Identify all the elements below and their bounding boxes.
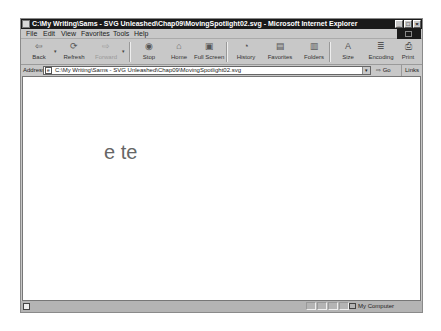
back-dropdown[interactable]: ▾ (54, 48, 57, 54)
refresh-button[interactable]: ⟳ Refresh (59, 41, 89, 63)
refresh-icon: ⟳ (69, 42, 79, 51)
maximize-button[interactable]: □ (404, 20, 412, 28)
page-status-icon (23, 303, 30, 310)
favorites-button[interactable]: ▤ Favorites (265, 41, 295, 63)
stop-icon: ◉ (144, 42, 154, 51)
home-icon: ⌂ (174, 42, 184, 51)
toolbar-separator (226, 42, 228, 62)
go-arrow-icon: ⇨ (376, 67, 381, 73)
minimize-button[interactable]: _ (395, 20, 403, 28)
spotlight-text: e te (104, 141, 137, 164)
folders-icon: ▥ (309, 42, 319, 51)
back-button[interactable]: ⇦ Back (24, 41, 54, 63)
menu-tools[interactable]: Tools (113, 29, 129, 39)
zone-label: My Computer (358, 303, 394, 309)
home-button[interactable]: ⌂ Home (164, 41, 194, 63)
encoding-icon: ≣ (376, 42, 386, 51)
status-pane (339, 302, 349, 310)
fullscreen-icon: ▣ (204, 42, 214, 51)
address-label: Address (23, 65, 45, 76)
menu-help[interactable]: Help (134, 29, 148, 39)
forward-button[interactable]: ⇨ Forward (91, 41, 121, 63)
computer-icon (349, 303, 356, 309)
status-bar: My Computer (21, 301, 422, 312)
security-zone: My Computer (349, 301, 394, 312)
status-pane (317, 302, 327, 310)
ie-throbber-logo (397, 29, 421, 39)
home-label: Home (164, 53, 194, 61)
status-pane (306, 302, 316, 310)
toolbar-separator (129, 42, 131, 62)
stop-label: Stop (134, 53, 164, 61)
stop-button[interactable]: ◉ Stop (134, 41, 164, 63)
page-icon: e (45, 67, 52, 74)
favorites-icon: ▤ (275, 42, 285, 51)
full-screen-button[interactable]: ▣ Full Screen (194, 41, 224, 63)
menu-bar: File Edit View Favorites Tools Help (21, 29, 422, 39)
ie-window: C:\My Writing\Sams - SVG Unleashed\Chap0… (20, 18, 423, 313)
go-button[interactable]: ⇨ Go (376, 65, 391, 76)
forward-dropdown[interactable]: ▾ (122, 48, 125, 54)
folders-button[interactable]: ▥ Folders (299, 41, 329, 63)
window-title: C:\My Writing\Sams - SVG Unleashed\Chap0… (32, 19, 357, 29)
title-bar[interactable]: C:\My Writing\Sams - SVG Unleashed\Chap0… (21, 19, 422, 29)
standard-toolbar: ⇦ Back ▾ ⟳ Refresh ⇨ Forward ▾ ◉ Stop ⌂ … (21, 39, 422, 65)
full-screen-label: Full Screen (194, 53, 224, 61)
forward-arrow-icon: ⇨ (101, 42, 111, 51)
ie-app-icon[interactable] (22, 20, 30, 28)
menu-edit[interactable]: Edit (43, 29, 55, 39)
menu-file[interactable]: File (26, 29, 37, 39)
print-button[interactable]: ⎙ Print (393, 41, 423, 63)
close-button[interactable]: × (413, 20, 421, 28)
status-panes (306, 302, 349, 310)
forward-label: Forward (91, 53, 121, 61)
window-controls: _ □ × (395, 20, 421, 28)
folders-label: Folders (299, 53, 329, 61)
encoding-label: Encoding (366, 53, 396, 61)
back-arrow-icon: ⇦ (34, 42, 44, 51)
history-icon: ◔ (241, 42, 251, 51)
history-button[interactable]: ◔ History (231, 41, 261, 63)
address-bar: Address e C:\My Writing\Sams - SVG Unlea… (21, 65, 422, 76)
menu-view[interactable]: View (61, 29, 76, 39)
go-label: Go (383, 67, 391, 73)
status-pane (328, 302, 338, 310)
print-label: Print (393, 53, 423, 61)
encoding-button[interactable]: ≣ Encoding (366, 41, 396, 63)
menu-favorites[interactable]: Favorites (81, 29, 110, 39)
favorites-label: Favorites (265, 53, 295, 61)
print-icon: ⎙ (403, 42, 413, 51)
refresh-label: Refresh (59, 53, 89, 61)
text-size-icon: A (343, 42, 353, 51)
back-label: Back (24, 53, 54, 61)
svg-content-area[interactable]: e te (22, 76, 421, 301)
address-value[interactable]: C:\My Writing\Sams - SVG Unleashed\Chap0… (55, 66, 241, 75)
toolbar-separator (329, 42, 331, 62)
address-dropdown-button[interactable]: ▾ (362, 67, 370, 74)
address-input[interactable]: e C:\My Writing\Sams - SVG Unleashed\Cha… (43, 66, 371, 75)
size-label: Size (333, 53, 363, 61)
windows-logo-icon (405, 31, 412, 37)
size-button[interactable]: A Size (333, 41, 363, 63)
history-label: History (231, 53, 261, 61)
